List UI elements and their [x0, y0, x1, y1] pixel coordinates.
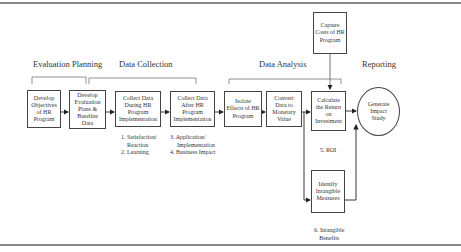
step-capture-costs: Capture Costs of HR Program [313, 12, 347, 54]
step-develop-objectives: Develop Objectives of HR Program [27, 90, 61, 128]
note-intangible: 6. Intangible Benefits [314, 227, 344, 242]
note-during: 1. Satisfaction/ Reaction 2. Learning [121, 134, 157, 157]
step-collect-data-during: Collect Data During HR Program Implement… [115, 91, 161, 127]
step-isolate-effects: Isolate Effects of HR Program [224, 91, 262, 127]
note-after: 3. Application/ Implementation 4. Busine… [170, 134, 216, 157]
note-roi: 5. ROI [320, 147, 336, 155]
step-identify-intangibles: Identify Intangible Measures [311, 170, 345, 213]
step-collect-data-after: Collect Data After HR Program Implementa… [170, 91, 215, 127]
step-develop-evaluation-plans: Develop Evaluation Plans & Baseline Data [69, 90, 106, 129]
step-convert-data: Convert Data to Monetary Value [266, 91, 302, 127]
step-generate-impact-study: Generate Impact Study [357, 87, 400, 136]
step-calculate-roi: Calculate the Return on Investment [311, 91, 346, 131]
